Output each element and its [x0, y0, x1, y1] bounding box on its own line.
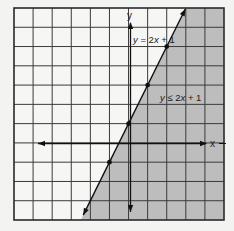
line-equation-label: y = 2x + 1	[132, 34, 175, 45]
line-point-dot	[145, 83, 150, 88]
x-axis-label: x	[210, 138, 215, 149]
y-axis-label: y	[127, 10, 132, 21]
line-point-dot	[107, 160, 112, 165]
inequality-label: y ≤ 2x + 1	[159, 92, 201, 103]
inequality-graph: x y y = 2x + 1 y ≤ 2x + 1	[0, 0, 234, 231]
line-point-dot	[126, 121, 131, 126]
